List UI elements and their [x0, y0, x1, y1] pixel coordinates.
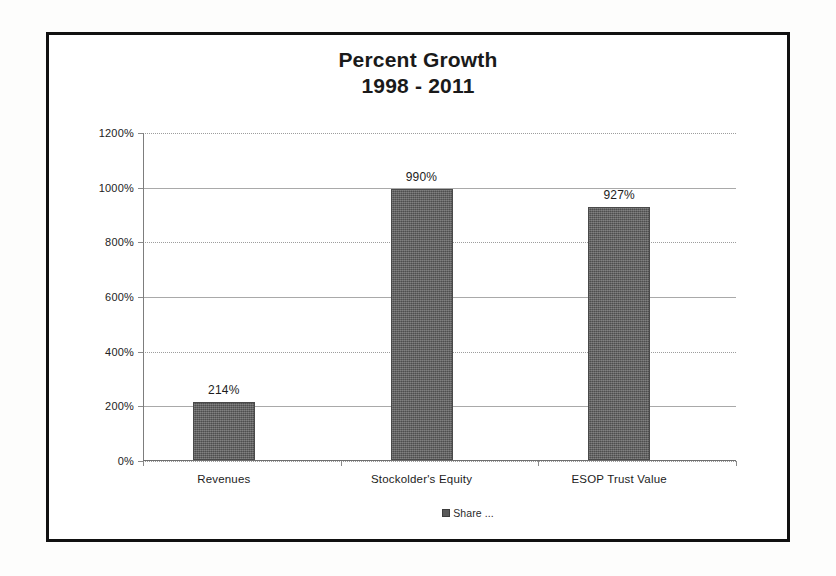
- x-tick-mark: [736, 461, 737, 466]
- x-category-label: Revenues: [197, 473, 250, 485]
- bar-value-label: 990%: [406, 170, 438, 184]
- x-category-label: Stockolder's Equity: [371, 473, 472, 485]
- y-tick-label: 800%: [105, 236, 134, 248]
- y-tick-label: 1200%: [99, 127, 134, 139]
- legend-item-label: Share ...: [453, 507, 494, 519]
- x-axis-line: [143, 460, 736, 461]
- bar[interactable]: 214%: [193, 402, 255, 460]
- y-axis-line: [143, 133, 144, 461]
- chart-legend: Share ...: [49, 507, 787, 519]
- chart-subtitle: 1998 - 2011: [49, 73, 787, 99]
- bar-value-label: 214%: [208, 383, 240, 397]
- legend-swatch-icon: [442, 509, 450, 517]
- y-tick-label: 600%: [105, 291, 134, 303]
- gridline: [143, 133, 736, 134]
- chart-frame: Percent Growth 1998 - 2011 0%200%400%600…: [46, 32, 790, 542]
- bar-value-label: 927%: [603, 188, 635, 202]
- bar[interactable]: 927%: [588, 207, 650, 460]
- y-tick-label: 400%: [105, 346, 134, 358]
- x-tick-mark: [143, 461, 144, 466]
- gridline: [143, 461, 736, 462]
- plot-area: 0%200%400%600%800%1000%1200% 214%990%927…: [143, 133, 736, 461]
- page-background: Percent Growth 1998 - 2011 0%200%400%600…: [0, 0, 836, 576]
- x-tick-mark: [341, 461, 342, 466]
- x-category-label: ESOP Trust Value: [571, 473, 666, 485]
- y-tick-label: 1000%: [99, 182, 134, 194]
- legend-item-share[interactable]: Share ...: [442, 507, 494, 519]
- y-tick-label: 200%: [105, 400, 134, 412]
- chart-title: Percent Growth: [49, 47, 787, 73]
- chart-title-block: Percent Growth 1998 - 2011: [49, 47, 787, 100]
- y-tick-label: 0%: [118, 455, 134, 467]
- bar[interactable]: 990%: [391, 189, 453, 460]
- x-tick-mark: [538, 461, 539, 466]
